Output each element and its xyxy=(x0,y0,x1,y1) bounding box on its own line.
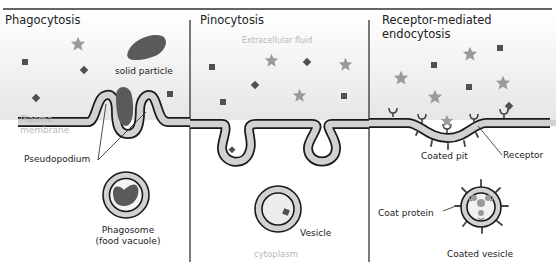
square-particle xyxy=(431,62,437,68)
label-solid-particle: solid particle xyxy=(115,66,173,76)
square-particle xyxy=(497,45,503,51)
label-cytoplasm: cytoplasm xyxy=(254,250,298,260)
square-particle xyxy=(209,64,215,70)
label-receptor: Receptor xyxy=(503,150,543,160)
label-extracellular-fluid: Extracellular fluid xyxy=(242,36,312,45)
diamond-particle xyxy=(228,146,235,153)
label-coated-pit: Coated pit xyxy=(421,151,468,161)
label-plasma-membrane-1: Plasma xyxy=(20,114,52,124)
square-particle xyxy=(22,59,28,65)
title-receptor-mediated-2: endocytosis xyxy=(382,28,451,41)
label-coat-protein: Coat protein xyxy=(378,208,434,218)
coat-protein-pointer xyxy=(443,206,456,211)
title-receptor-mediated-1: Receptor-mediated xyxy=(382,14,492,27)
label-vesicle: Vesicle xyxy=(300,228,331,238)
extracellular-fluid-region xyxy=(0,12,556,120)
label-coated-vesicle: Coated vesicle xyxy=(447,249,513,259)
title-phagocytosis: Phagocytosis xyxy=(5,14,80,27)
label-phagosome: Phagosome xyxy=(97,225,159,235)
label-pseudopodium: Pseudopodium xyxy=(24,154,90,164)
square-particle xyxy=(466,84,472,90)
plasma-membrane xyxy=(190,124,369,162)
receptor-pointer xyxy=(478,126,502,155)
header-rule xyxy=(0,0,556,9)
label-plasma-membrane-2: membrane xyxy=(20,125,69,135)
square-particle xyxy=(167,91,173,97)
title-pinocytosis: Pinocytosis xyxy=(200,14,264,27)
coated-vesicle xyxy=(455,180,508,233)
square-particle xyxy=(220,99,226,105)
label-food-vacuole: (food vacuole) xyxy=(90,236,166,246)
square-particle xyxy=(341,93,347,99)
